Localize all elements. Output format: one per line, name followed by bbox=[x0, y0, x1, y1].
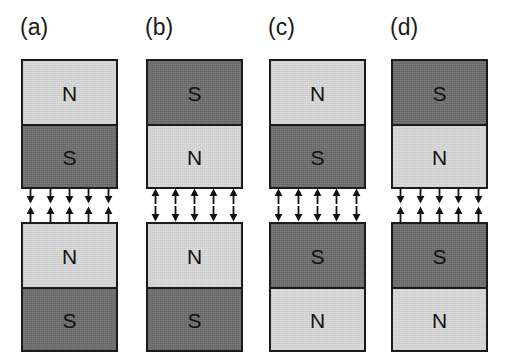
pole-label: N bbox=[271, 82, 364, 103]
pole-label: N bbox=[148, 245, 241, 266]
panel-a-field-arrows bbox=[21, 188, 118, 222]
arrow-up-icon bbox=[104, 206, 113, 222]
pole-label: S bbox=[148, 309, 241, 330]
panel-d-field-arrows bbox=[391, 188, 488, 222]
panel-a-bottom-magnet-lower-pole: S bbox=[23, 287, 116, 350]
pole-label: N bbox=[393, 309, 486, 330]
arrow-up-icon bbox=[396, 206, 405, 222]
panel-b-bottom-magnet-lower-pole: S bbox=[148, 287, 241, 350]
arrow-down-icon bbox=[274, 206, 283, 222]
pole-label: S bbox=[271, 245, 364, 266]
panel-b-top-magnet: S N bbox=[146, 59, 243, 189]
arrow-down-icon bbox=[209, 206, 218, 222]
arrow-down-icon bbox=[294, 206, 303, 222]
arrow-down-icon bbox=[396, 188, 405, 204]
panel-c-top-magnet: N S bbox=[269, 59, 366, 189]
arrow-down-icon bbox=[26, 188, 35, 204]
arrow-down-icon bbox=[151, 206, 160, 222]
panel-c-top-magnet-lower-pole: S bbox=[271, 124, 364, 187]
panel-d: (d) S N bbox=[384, 0, 504, 363]
pole-label: S bbox=[23, 309, 116, 330]
panel-c-field-arrows bbox=[269, 188, 366, 222]
arrow-up-icon bbox=[416, 206, 425, 222]
arrow-up-icon bbox=[352, 188, 361, 204]
panel-b-upper-arrow-row bbox=[146, 188, 243, 204]
panel-d-label: (d) bbox=[390, 16, 418, 39]
panel-a-label: (a) bbox=[20, 16, 48, 39]
panel-b-bottom-magnet-upper-pole: N bbox=[148, 224, 241, 287]
pole-label: S bbox=[271, 146, 364, 167]
pole-label: N bbox=[393, 146, 486, 167]
arrow-up-icon bbox=[46, 206, 55, 222]
arrow-down-icon bbox=[229, 206, 238, 222]
panel-c-bottom-magnet-upper-pole: S bbox=[271, 224, 364, 287]
panel-a-top-magnet: N S bbox=[21, 59, 118, 189]
panel-c-top-magnet-upper-pole: N bbox=[271, 61, 364, 124]
pole-label: S bbox=[23, 146, 116, 167]
arrow-up-icon bbox=[474, 206, 483, 222]
arrow-down-icon bbox=[332, 206, 341, 222]
panel-a-upper-arrow-row bbox=[21, 188, 118, 204]
arrow-up-icon bbox=[332, 188, 341, 204]
panel-c-bottom-magnet-lower-pole: N bbox=[271, 287, 364, 350]
arrow-down-icon bbox=[474, 188, 483, 204]
panel-b: (b) S N bbox=[139, 0, 259, 363]
arrow-up-icon bbox=[26, 206, 35, 222]
pole-label: N bbox=[271, 309, 364, 330]
arrow-down-icon bbox=[46, 188, 55, 204]
arrow-up-icon bbox=[65, 206, 74, 222]
panel-d-upper-arrow-row bbox=[391, 188, 488, 204]
panel-a-bottom-magnet-upper-pole: N bbox=[23, 224, 116, 287]
arrow-up-icon bbox=[209, 188, 218, 204]
panel-b-field-arrows bbox=[146, 188, 243, 222]
arrow-down-icon bbox=[65, 188, 74, 204]
arrow-up-icon bbox=[313, 188, 322, 204]
arrow-up-icon bbox=[274, 188, 283, 204]
panel-d-top-magnet-lower-pole: N bbox=[393, 124, 486, 187]
pole-label: N bbox=[148, 146, 241, 167]
arrow-up-icon bbox=[151, 188, 160, 204]
panel-d-bottom-magnet-upper-pole: S bbox=[393, 224, 486, 287]
arrow-down-icon bbox=[352, 206, 361, 222]
panel-c-label: (c) bbox=[268, 16, 295, 39]
panel-c-bottom-magnet: S N bbox=[269, 222, 366, 352]
arrow-up-icon bbox=[454, 206, 463, 222]
panel-d-lower-arrow-row bbox=[391, 206, 488, 222]
arrow-up-icon bbox=[84, 206, 93, 222]
panel-d-top-magnet: S N bbox=[391, 59, 488, 189]
pole-label: S bbox=[393, 245, 486, 266]
panel-a-bottom-magnet: N S bbox=[21, 222, 118, 352]
panel-c-lower-arrow-row bbox=[269, 206, 366, 222]
panel-b-lower-arrow-row bbox=[146, 206, 243, 222]
arrow-down-icon bbox=[313, 206, 322, 222]
panel-d-top-magnet-upper-pole: S bbox=[393, 61, 486, 124]
panel-c-upper-arrow-row bbox=[269, 188, 366, 204]
panel-b-bottom-magnet: N S bbox=[146, 222, 243, 352]
arrow-down-icon bbox=[171, 206, 180, 222]
panel-b-top-magnet-upper-pole: S bbox=[148, 61, 241, 124]
arrow-down-icon bbox=[190, 206, 199, 222]
arrow-up-icon bbox=[294, 188, 303, 204]
arrow-down-icon bbox=[454, 188, 463, 204]
panel-a-lower-arrow-row bbox=[21, 206, 118, 222]
panel-a-top-magnet-upper-pole: N bbox=[23, 61, 116, 124]
arrow-down-icon bbox=[104, 188, 113, 204]
panel-b-top-magnet-lower-pole: N bbox=[148, 124, 241, 187]
pole-label: S bbox=[148, 82, 241, 103]
panel-d-bottom-magnet-lower-pole: N bbox=[393, 287, 486, 350]
pole-label: N bbox=[23, 82, 116, 103]
panel-d-bottom-magnet: S N bbox=[391, 222, 488, 352]
magnet-pair-figure: (a) N S bbox=[0, 0, 512, 363]
arrow-down-icon bbox=[435, 188, 444, 204]
arrow-down-icon bbox=[416, 188, 425, 204]
arrow-up-icon bbox=[190, 188, 199, 204]
pole-label: N bbox=[23, 245, 116, 266]
panel-a: (a) N S bbox=[14, 0, 134, 363]
arrow-down-icon bbox=[84, 188, 93, 204]
pole-label: S bbox=[393, 82, 486, 103]
panel-b-label: (b) bbox=[145, 16, 173, 39]
arrow-up-icon bbox=[171, 188, 180, 204]
panel-c: (c) N S bbox=[262, 0, 382, 363]
panel-a-top-magnet-lower-pole: S bbox=[23, 124, 116, 187]
arrow-up-icon bbox=[435, 206, 444, 222]
